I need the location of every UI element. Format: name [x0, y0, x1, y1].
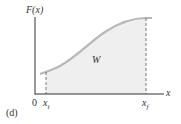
xf-label: xf — [142, 98, 148, 111]
origin-label: 0 — [32, 98, 37, 108]
panel-label: (d) — [6, 108, 18, 118]
x-axis-label: x — [166, 88, 170, 98]
area-label-w: W — [92, 55, 100, 65]
xi-label: xi — [43, 98, 49, 111]
y-axis-label: F(x) — [26, 5, 43, 15]
work-diagram — [0, 0, 181, 124]
